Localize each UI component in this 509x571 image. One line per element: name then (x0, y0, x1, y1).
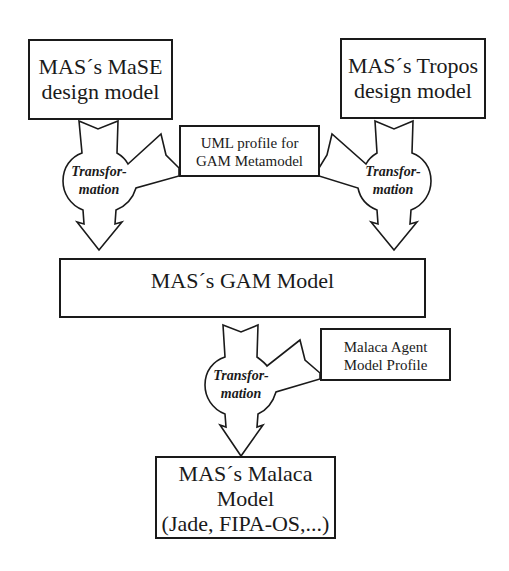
tropos-box-line1: MAS´s Tropos (348, 53, 478, 78)
uml-profile-line2: GAM Metamodel (196, 152, 303, 170)
malaca-profile-line2: Model Profile (344, 356, 428, 374)
tropos-design-model-box: MAS´s Tropos design model (340, 38, 486, 119)
uml-profile-line1: UML profile for (201, 134, 299, 152)
transformation-label-bottom: Transfor- mation (201, 367, 281, 403)
tropos-box-line2: design model (354, 78, 472, 103)
transformation-label-left: Transfor- mation (59, 163, 139, 199)
malaca-agent-model-profile-box: Malaca Agent Model Profile (320, 328, 451, 381)
gam-box-label: MAS´s GAM Model (151, 268, 334, 293)
malaca-model-box: MAS´s Malaca Model (Jade, FIPA-OS,...) (155, 456, 336, 539)
malaca-box-line3: (Jade, FIPA-OS,...) (162, 511, 330, 536)
transformation-label-right: Transfor- mation (353, 163, 433, 199)
malaca-profile-line1: Malaca Agent (344, 338, 428, 356)
malaca-box-line1: MAS´s Malaca (179, 461, 313, 486)
uml-profile-gam-metamodel-box: UML profile for GAM Metamodel (179, 125, 320, 177)
gam-model-box: MAS´s GAM Model (59, 258, 426, 318)
mase-box-line1: MAS´s MaSE (38, 54, 162, 79)
mase-design-model-box: MAS´s MaSE design model (28, 39, 173, 120)
malaca-box-line2: Model (217, 486, 274, 511)
mase-box-line2: design model (42, 79, 160, 104)
